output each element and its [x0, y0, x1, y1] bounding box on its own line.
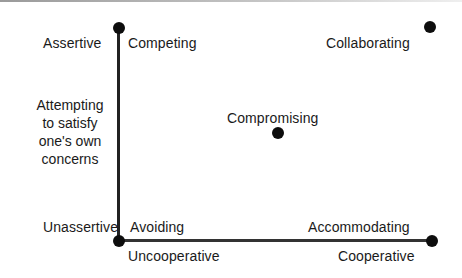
avoiding-label: Avoiding [130, 219, 184, 235]
compromising-label: Compromising [227, 110, 318, 126]
cooperative-label: Cooperative [338, 248, 415, 264]
axis-description-line: Attempting [28, 96, 112, 114]
assertiveness-axis [117, 28, 120, 242]
compromising-point [272, 127, 284, 139]
axis-description-line: one's own [28, 132, 112, 150]
avoiding-point [113, 235, 125, 247]
competing-point [113, 22, 125, 34]
top-border-rule [0, 0, 462, 2]
assertive-label: Assertive [43, 35, 101, 51]
axis-description-line: to satisfy [28, 114, 112, 132]
uncooperative-label: Uncooperative [128, 248, 220, 264]
vertical-axis-description: Attempting to satisfy one's own concerns [28, 96, 112, 168]
axis-description-line: concerns [28, 150, 112, 168]
accommodating-label: Accommodating [308, 219, 410, 235]
accommodating-point [426, 235, 438, 247]
competing-label: Competing [128, 35, 197, 51]
collaborating-label: Collaborating [326, 35, 410, 51]
unassertive-label: Unassertive [43, 219, 118, 235]
cooperativeness-axis [118, 239, 432, 242]
collaborating-point [424, 21, 436, 33]
